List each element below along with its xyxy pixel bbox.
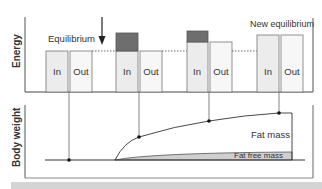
energy-panel: Equilibrium New equilibrium In Out In Ou…: [11, 17, 314, 92]
surplus-block-3: [187, 31, 208, 42]
weight-point-1: [67, 158, 71, 162]
connector-lines: [69, 92, 279, 160]
weight-point-2: [137, 135, 141, 139]
down-arrow-icon: [99, 17, 106, 45]
bar-out-4-label: Out: [284, 66, 300, 77]
fat-mass-label: Fat mass: [251, 129, 290, 140]
fat-free-mass-label: Fat free mass: [234, 151, 283, 160]
equilibrium-label: Equilibrium: [48, 33, 95, 44]
bar-out-4: [281, 35, 303, 92]
energy-balance-diagram: Equilibrium New equilibrium In Out In Ou…: [0, 0, 322, 189]
weight-point-3: [207, 119, 211, 123]
body-weight-axis-label: Body weight: [11, 107, 22, 167]
bar-out-3-label: Out: [213, 66, 229, 77]
bar-in-4: [257, 35, 279, 92]
bar-in-2-label: In: [123, 66, 131, 77]
weight-point-4: [277, 111, 281, 115]
bar-out-1-label: Out: [73, 66, 89, 77]
body-weight-panel: Fat mass Fat free mass Body weight: [11, 105, 313, 178]
bar-in-4-label: In: [264, 66, 272, 77]
bar-out-2-label: Out: [143, 66, 159, 77]
new-equilibrium-label: New equilibrium: [250, 19, 314, 29]
surplus-block-2: [116, 33, 138, 51]
bar-in-3-label: In: [193, 66, 201, 77]
bar-in-1-label: In: [53, 66, 61, 77]
energy-axis-label: Energy: [11, 34, 22, 68]
bottom-band: [11, 182, 322, 189]
